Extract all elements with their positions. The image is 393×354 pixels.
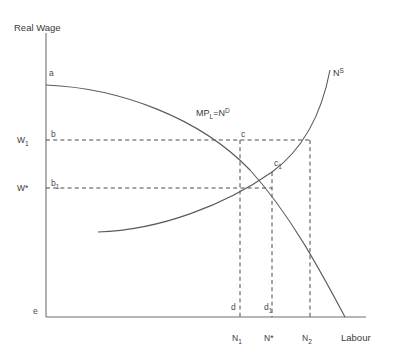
y-tick-wstar: W*: [17, 183, 29, 193]
x-axis-title: Labour: [341, 332, 371, 343]
point-d-label: d: [231, 302, 236, 312]
x-tick-nstar: N*: [264, 333, 274, 343]
labour-market-diagram: Real Wage Labour W1 W* N1 N* N2 MPL=N: [0, 0, 393, 354]
point-c-label: c: [241, 129, 246, 139]
x-tick-n2: N2: [302, 333, 312, 345]
labour-demand-curve: [46, 85, 345, 317]
point-b1-label: b1: [51, 178, 60, 190]
point-a-label: a: [49, 68, 54, 78]
point-c1-label: c1: [274, 158, 282, 170]
y-tick-labels-group: W1 W*: [17, 135, 29, 193]
point-d1-label: d1: [264, 302, 273, 314]
guide-lines-group: [46, 140, 311, 317]
axes-group: [46, 33, 366, 317]
x-tick-n1: N1: [232, 333, 242, 345]
y-tick-w1: W1: [17, 135, 29, 147]
y-axis-title: Real Wage: [14, 22, 61, 33]
point-b-label: b: [51, 129, 56, 139]
x-tick-labels-group: N1 N* N2: [232, 333, 312, 345]
diagram-canvas: Real Wage Labour W1 W* N1 N* N2 MPL=N: [0, 0, 393, 354]
labour-supply-curve: [98, 70, 330, 232]
point-e-label: e: [33, 306, 38, 316]
labour-supply-curve-label: NS: [333, 67, 345, 79]
labour-demand-curve-label: MPL=ND: [196, 107, 230, 120]
point-labels-group: a b b1 c c1 d d1 e: [33, 68, 282, 316]
